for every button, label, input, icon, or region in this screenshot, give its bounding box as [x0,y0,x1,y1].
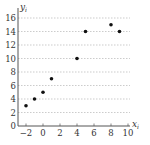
data-point [75,57,79,61]
x-tick-label: 0 [40,128,45,138]
axes [18,8,130,126]
y-tick-label: 2 [11,108,16,118]
x-axis-label: xi [132,119,139,130]
x-tick-label: 8 [108,128,113,138]
x-tick-label: 6 [91,128,96,138]
scatter-chart: −202468100246810121416 xi yi [0,0,150,145]
data-point [109,23,113,27]
y-tick-label: 0 [11,121,16,131]
data-point [118,30,122,34]
data-points [24,23,121,108]
x-tick-label: 4 [74,128,79,138]
data-point [33,97,37,101]
data-point [84,30,88,34]
x-tick-label: 10 [123,128,134,138]
y-tick-label: 4 [11,94,16,104]
x-tick-label: −2 [20,128,33,138]
y-tick-label: 14 [5,27,16,37]
y-tick-label: 10 [5,54,16,64]
data-point [24,104,28,108]
x-tick-label: 2 [57,128,62,138]
data-point [41,90,45,94]
data-point [50,77,54,81]
y-tick-label: 8 [11,67,16,77]
y-tick-label: 12 [5,40,16,50]
y-tick-label: 16 [5,13,16,23]
y-axis-label: yi [19,2,27,13]
y-tick-label: 6 [11,81,16,91]
